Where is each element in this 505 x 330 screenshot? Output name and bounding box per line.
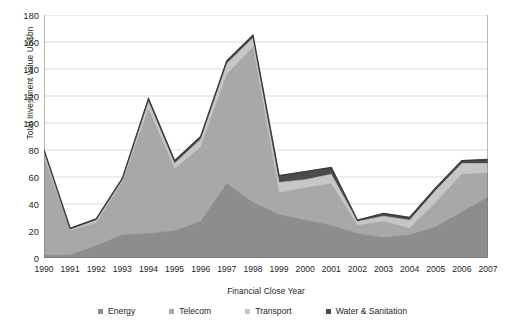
x-tick-label: 1992: [87, 264, 106, 274]
legend-item[interactable]: Transport: [245, 306, 291, 316]
legend-item[interactable]: Water & Sanitation: [326, 306, 407, 316]
x-tick-label: 2005: [426, 264, 445, 274]
y-tick-label: 80: [29, 145, 39, 156]
y-tick-label: 160: [23, 37, 39, 48]
legend-label: Telecom: [179, 306, 211, 316]
y-tick-label: 60: [29, 172, 39, 183]
x-tick-label: 1998: [243, 264, 262, 274]
area-chart: Total Investment value US$bn Financial C…: [0, 0, 505, 330]
plot-area: 0204060801001201401601801990199119921993…: [44, 15, 488, 258]
legend-item[interactable]: Energy: [98, 306, 135, 316]
x-tick-label: 2001: [322, 264, 341, 274]
x-tick-label: 1997: [217, 264, 236, 274]
x-tick-label: 1995: [165, 264, 184, 274]
x-tick-label: 1994: [139, 264, 158, 274]
x-tick-label: 1993: [113, 264, 132, 274]
x-tick-label: 2007: [478, 264, 497, 274]
x-tick-label: 1999: [269, 264, 288, 274]
chart-legend: EnergyTelecomTransportWater & Sanitation: [0, 306, 505, 316]
legend-swatch-icon: [245, 309, 250, 314]
x-axis-title: Financial Close Year: [44, 286, 488, 296]
x-tick-label: 1996: [191, 264, 210, 274]
x-tick-label: 1991: [61, 264, 80, 274]
legend-item[interactable]: Telecom: [169, 306, 211, 316]
y-tick-label: 100: [23, 118, 39, 129]
y-tick-label: 180: [23, 10, 39, 21]
legend-label: Transport: [255, 306, 291, 316]
legend-label: Energy: [108, 306, 135, 316]
x-tick-label: 2003: [374, 264, 393, 274]
x-tick-label: 2000: [296, 264, 315, 274]
x-tick-label: 1990: [34, 264, 53, 274]
chart-canvas: [44, 15, 488, 258]
legend-label: Water & Sanitation: [336, 306, 407, 316]
x-tick-label: 2002: [348, 264, 367, 274]
x-tick-label: 2006: [452, 264, 471, 274]
y-tick-label: 0: [34, 253, 39, 264]
y-tick-label: 20: [29, 226, 39, 237]
y-tick-label: 40: [29, 199, 39, 210]
y-tick-label: 140: [23, 64, 39, 75]
legend-swatch-icon: [169, 309, 174, 314]
legend-swatch-icon: [98, 309, 103, 314]
y-tick-label: 120: [23, 91, 39, 102]
legend-swatch-icon: [326, 309, 331, 314]
x-tick-label: 2004: [400, 264, 419, 274]
